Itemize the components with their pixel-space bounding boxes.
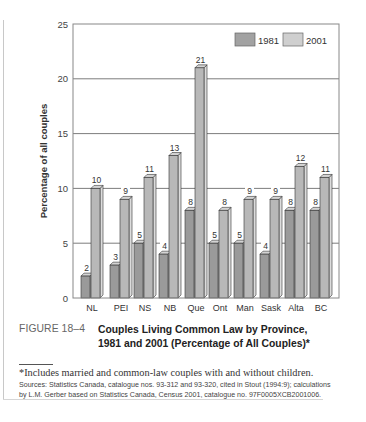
value-label: 13 [170,143,180,153]
bar-front [120,199,129,298]
y-tick-label: 20 [57,73,68,84]
bar-front [270,199,279,298]
value-label: 21 [196,55,206,65]
value-label: 9 [273,186,278,196]
bar-side [153,174,156,298]
x-tick-label: Man [236,303,254,313]
value-label: 4 [263,241,268,251]
value-label: 4 [162,241,167,251]
bar-front [209,243,218,298]
x-tick-label: Alta [288,303,304,313]
bar-side [178,153,181,298]
bar-side [304,163,307,298]
bar-side [228,207,231,298]
bar-front [110,265,119,298]
bar-front [234,243,243,298]
y-tick-label: 0 [63,293,68,304]
value-label: 8 [188,197,193,207]
value-label: 8 [288,197,293,207]
bar-side [100,185,103,298]
x-tick-label: PEI [114,303,129,313]
bar-chart: 0510152025 Percentage of all couples 210… [0,0,366,320]
bar-front [169,156,178,298]
value-label: 5 [137,230,142,240]
value-label: 5 [212,230,217,240]
value-label: 9 [123,186,128,196]
value-label: 8 [313,197,318,207]
x-tick-label: BC [315,303,328,313]
value-label: 3 [113,252,118,262]
bar-front [91,188,100,298]
bar-2001-NL: 10 [91,175,103,298]
x-tick-label: Que [187,303,204,313]
bar-side [279,196,282,298]
bar-front [219,210,228,298]
x-tick-label: NB [164,303,177,313]
value-label: 9 [247,186,252,196]
bar-front [185,210,194,298]
value-label: 2 [84,263,89,273]
bar-front [295,166,304,298]
y-tick-label: 25 [57,19,68,30]
bar-side [129,196,132,298]
bar-front [144,177,153,298]
bar-side [204,65,207,298]
y-tick-label: 10 [57,183,68,194]
bar-side [329,174,332,298]
bar-front [159,254,168,298]
footnote: *Includes married and common-law couples… [19,367,313,378]
bar-front [244,199,253,298]
bar-front [320,177,329,298]
value-label: 5 [237,230,242,240]
y-tick-label: 5 [63,238,68,249]
value-label: 11 [145,164,154,174]
legend-swatch-2001 [283,33,303,46]
figure-label: FIGURE 18–4 [19,322,85,334]
legend: 19812001 [235,33,327,46]
bar-front [195,68,204,298]
bar-2001-Que: 21 [195,55,207,298]
value-label: 12 [296,153,306,163]
value-label: 10 [92,175,102,185]
bar-2001-NS: 11 [144,164,156,298]
x-tick-label: Sask [261,303,282,313]
sources-note: Sources: Statistics Canada, catalogue no… [19,380,339,400]
bar-2001-BC: 11 [320,164,332,298]
bar-front [134,243,143,298]
value-label: 11 [321,164,330,174]
bar-2001-NB: 13 [169,143,181,298]
bar-2001-PEI: 9 [120,186,132,298]
x-tick-label: NS [139,303,152,313]
figure-title: Couples Living Common Law by Province, 1… [98,322,332,350]
legend-label-2001: 2001 [306,35,327,46]
x-tick-label: NL [86,303,98,313]
bar-front [260,254,269,298]
bar-2001-Man: 9 [244,186,256,298]
bars: 21039511413821585949812811 [81,55,332,298]
value-label: 8 [222,197,227,207]
bar-2001-Sask: 9 [270,186,282,298]
x-tick-label: Ont [213,303,228,313]
bar-front [81,276,90,298]
bar-2001-Alta: 12 [295,153,307,298]
y-axis-label: Percentage of all couples [38,104,49,219]
bar-2001-Ont: 8 [219,197,231,298]
bar-side [253,196,256,298]
legend-label-1981: 1981 [258,35,279,46]
footnote-rule [19,364,53,365]
bar-front [285,210,294,298]
legend-swatch-1981 [235,33,255,46]
y-tick-label: 15 [57,128,68,139]
x-axis-labels: NLPEINSNBQueOntManSaskAltaBC [86,303,328,313]
bar-front [310,210,319,298]
y-axis-ticks: 0510152025 [57,19,68,304]
